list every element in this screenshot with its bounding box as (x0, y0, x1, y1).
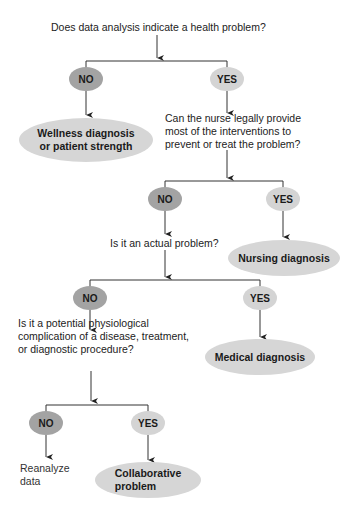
answer-yes-3: YES (243, 286, 277, 310)
answer-yes-2: YES (266, 187, 300, 211)
outcome-medical-diagnosis: Medical diagnosis (205, 339, 315, 375)
collaborative-line1: Collaborative (115, 467, 182, 480)
question-nurse-legally-provide: Can the nurse legally provide most of th… (165, 112, 301, 151)
question-2-line1: Can the nurse legally provide (165, 112, 301, 125)
answer-no-1: NO (69, 67, 103, 91)
question-2-line2: most of the interventions to (165, 125, 301, 138)
question-4-line3: or diagnostic procedure? (18, 343, 189, 356)
question-4-line1: Is it a potential physiological (18, 317, 189, 330)
collaborative-line2: problem (115, 480, 182, 493)
question-4-line2: complication of a disease, treatment, (18, 330, 189, 343)
flowchart: Does data analysis indicate a health pro… (0, 0, 350, 513)
question-potential-complication: Is it a potential physiological complica… (18, 317, 189, 356)
question-actual-problem: Is it an actual problem? (110, 237, 219, 250)
answer-yes-4: YES (131, 411, 165, 435)
answer-no-2: NO (148, 187, 182, 211)
outcome-nursing-diagnosis: Nursing diagnosis (228, 240, 340, 276)
question-health-problem: Does data analysis indicate a health pro… (51, 21, 266, 34)
question-2-line3: prevent or treat the problem? (165, 138, 301, 151)
outcome-collaborative-problem: Collaborative problem (95, 462, 201, 498)
outcome-reanalyze-data: Reanalyze data (20, 462, 70, 487)
outcome-wellness-line2: or patient strength (37, 140, 134, 153)
answer-no-3: NO (73, 286, 107, 310)
outcome-wellness-diagnosis: Wellness diagnosis or patient strength (19, 118, 153, 162)
reanalyze-line1: Reanalyze (20, 462, 70, 475)
answer-yes-1: YES (210, 67, 244, 91)
outcome-wellness-line1: Wellness diagnosis (37, 127, 134, 140)
reanalyze-line2: data (20, 475, 70, 488)
answer-no-4: NO (29, 411, 63, 435)
